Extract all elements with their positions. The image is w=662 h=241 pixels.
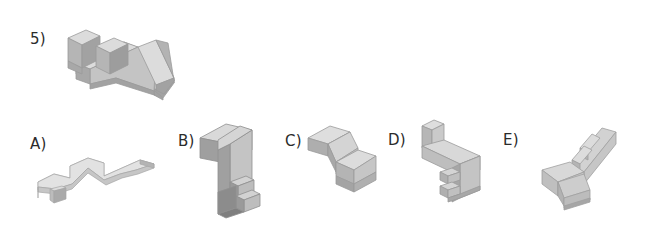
target-figure-svg [56,12,181,107]
option-figure-d[interactable] [406,118,494,204]
item-number-label: 5) [30,32,46,47]
option-figure-b[interactable] [196,120,270,218]
option-figure-c[interactable] [306,122,380,210]
option-d-svg [406,118,494,204]
option-label-e: E) [503,133,519,148]
option-figure-a[interactable] [36,146,158,208]
option-c-svg [306,122,380,210]
option-label-d: D) [388,133,406,148]
worksheet-canvas: 5) [0,0,662,241]
option-label-b: B) [178,134,195,149]
option-figure-e[interactable] [536,118,624,214]
option-e-svg [536,118,624,214]
option-b-svg [196,120,270,218]
option-label-c: C) [285,134,302,149]
target-figure [56,12,181,107]
option-a-svg [36,146,158,208]
